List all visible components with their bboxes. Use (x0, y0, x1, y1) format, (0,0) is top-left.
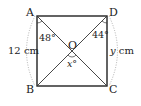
angle-arc-o (68, 55, 76, 57)
vertex-label-d: D (109, 6, 118, 19)
angle-label-d: 44° (92, 29, 109, 40)
angle-label-o: x° (67, 58, 77, 69)
center-label-o: O (68, 39, 77, 52)
vertex-label-a: A (25, 6, 35, 19)
right-side-length: y cm (109, 45, 134, 56)
rectangle-diagram: A D B C O 48° 44° x° 12 cm y cm (0, 0, 141, 106)
vertex-label-c: C (109, 83, 117, 96)
angle-label-a: 48° (39, 32, 56, 43)
angle-arc-d (102, 21, 107, 23)
angle-arc-a (37, 21, 42, 23)
left-side-length: 12 cm (8, 45, 40, 56)
right-side-unit: cm (116, 45, 135, 56)
vertex-label-b: B (26, 83, 34, 96)
